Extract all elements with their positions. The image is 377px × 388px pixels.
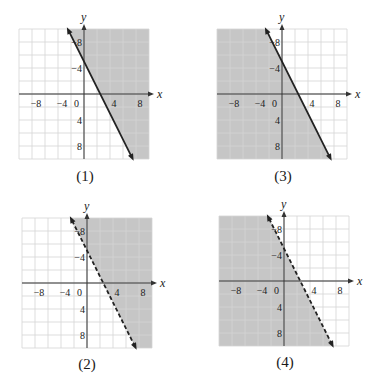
x-axis-label: x	[356, 274, 363, 288]
x-tick-label: 8	[338, 285, 343, 296]
x-tick-label: 4	[312, 285, 317, 296]
graph-caption-4: (4)	[265, 354, 305, 371]
x-tick-label: 0	[274, 285, 279, 296]
graph-panel-4: xy−8−404884−4−8 (4)	[0, 0, 377, 388]
y-axis-label: y	[280, 197, 287, 211]
y-tick-label: 4	[277, 302, 282, 313]
x-tick-label: −4	[257, 285, 268, 296]
y-axis-arrow-icon	[282, 211, 287, 217]
x-tick-label: −8	[231, 285, 242, 296]
y-tick-label: 8	[277, 328, 282, 339]
y-tick-label: −4	[271, 250, 282, 261]
x-axis-arrow-icon	[348, 279, 354, 284]
graph-4: xy−8−404884−4−8	[0, 0, 377, 360]
